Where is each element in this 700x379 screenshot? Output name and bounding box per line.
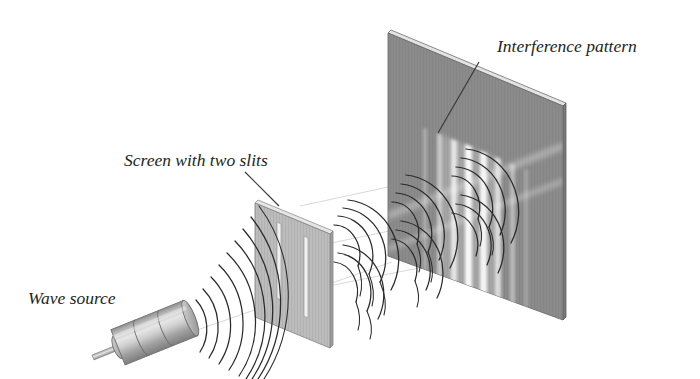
label-screen-with-two-slits: Screen with two slits <box>124 150 268 170</box>
physics-diagram-double-slit: Wave source Screen with two slits Interf… <box>0 0 700 379</box>
fringe-band <box>524 169 528 311</box>
label-wave-source: Wave source <box>28 288 116 308</box>
barrier-with-two-slits <box>255 200 333 348</box>
wave-source-emitter <box>86 299 202 375</box>
label-interference-pattern: Interference pattern <box>496 36 637 56</box>
slit-right <box>304 236 308 318</box>
leader-line-slit-screen <box>245 172 279 206</box>
